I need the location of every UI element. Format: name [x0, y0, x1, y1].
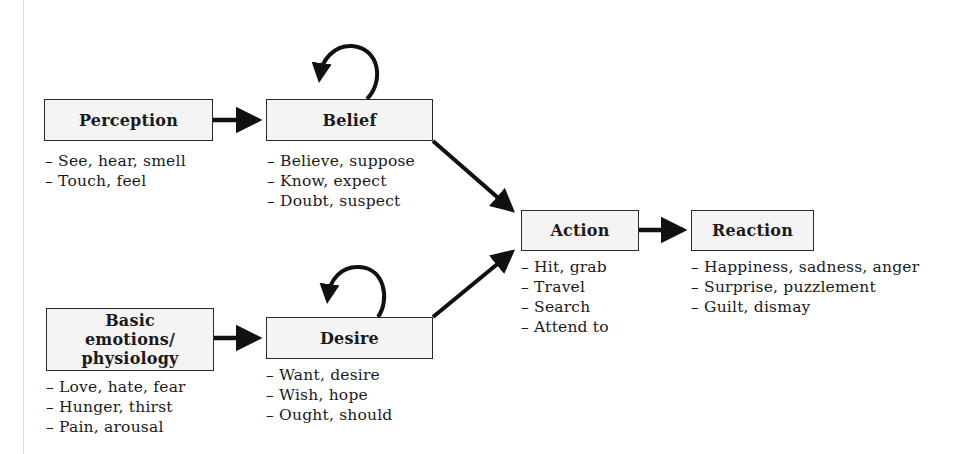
node-basic-emotions-label: Basic emotions/ physiology	[65, 311, 195, 368]
list-item: Surprise, puzzlement	[691, 277, 919, 297]
node-belief: Belief	[266, 99, 433, 141]
list-item: Attend to	[521, 317, 609, 337]
node-reaction: Reaction	[691, 210, 814, 251]
list-item: Love, hate, fear	[46, 377, 186, 397]
list-item: Pain, arousal	[46, 417, 186, 437]
node-basic-emotions: Basic emotions/ physiology	[46, 308, 214, 371]
desire-self-loop-arrow	[328, 267, 384, 317]
list-item: Travel	[521, 277, 609, 297]
node-belief-label: Belief	[322, 111, 376, 130]
desire-examples: Want, desire Wish, hope Ought, should	[266, 365, 393, 425]
edge-desire-to-action	[433, 252, 512, 317]
basic-emotions-examples: Love, hate, fear Hunger, thirst Pain, ar…	[46, 377, 186, 437]
list-item: Hit, grab	[521, 257, 609, 277]
list-item: Happiness, sadness, anger	[691, 257, 919, 277]
list-item: See, hear, smell	[45, 151, 186, 171]
list-item: Search	[521, 297, 609, 317]
list-item: Know, expect	[267, 171, 415, 191]
node-action: Action	[521, 210, 639, 251]
list-item: Doubt, suspect	[267, 191, 415, 211]
node-desire-label: Desire	[320, 329, 379, 348]
node-desire: Desire	[266, 317, 433, 359]
list-item: Touch, feel	[45, 171, 186, 191]
list-item: Guilt, dismay	[691, 297, 919, 317]
node-action-label: Action	[550, 221, 609, 240]
belief-self-loop-arrow	[320, 46, 377, 99]
edge-belief-to-action	[433, 141, 512, 210]
list-item: Hunger, thirst	[46, 397, 186, 417]
list-item: Want, desire	[266, 365, 393, 385]
belief-examples: Believe, suppose Know, expect Doubt, sus…	[267, 151, 415, 211]
perception-examples: See, hear, smell Touch, feel	[45, 151, 186, 191]
list-item: Ought, should	[266, 405, 393, 425]
node-perception: Perception	[44, 99, 213, 141]
reaction-examples: Happiness, sadness, anger Surprise, puzz…	[691, 257, 919, 317]
action-examples: Hit, grab Travel Search Attend to	[521, 257, 609, 337]
node-reaction-label: Reaction	[712, 221, 793, 240]
node-perception-label: Perception	[79, 111, 178, 130]
list-item: Wish, hope	[266, 385, 393, 405]
list-item: Believe, suppose	[267, 151, 415, 171]
